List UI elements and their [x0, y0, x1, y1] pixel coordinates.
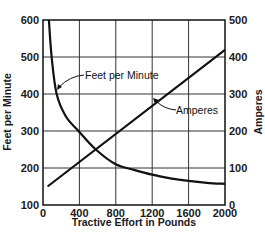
left-y-tick-label: 500	[21, 51, 39, 63]
right-y-tick-label: 200	[229, 125, 247, 137]
amps-annotation-arrow	[156, 101, 176, 110]
left-y-axis-ticks: 100200300400500600	[21, 14, 39, 211]
left-y-tick-label: 600	[21, 14, 39, 26]
x-tick-label: 0	[40, 207, 46, 219]
chart-canvas: 0400800120016002000 100200300400500600 0…	[0, 0, 265, 243]
feet-per-minute-curve	[49, 20, 225, 184]
left-y-tick-label: 200	[21, 162, 39, 174]
right-y-axis-title: Amperes	[252, 89, 264, 134]
right-y-axis-ticks: 0100200300400500	[229, 14, 247, 211]
left-y-tick-label: 100	[21, 199, 39, 211]
fpm-annotation-arrow	[59, 75, 84, 87]
right-y-tick-label: 100	[229, 162, 247, 174]
right-y-tick-label: 500	[229, 14, 247, 26]
right-y-tick-label: 400	[229, 51, 247, 63]
left-y-tick-label: 300	[21, 125, 39, 137]
amps-annotation-label: Amperes	[176, 104, 218, 116]
right-y-tick-label: 0	[229, 199, 235, 211]
left-y-axis-title: Feet per Minute	[1, 73, 13, 151]
x-axis-title: Tractive Effort in Pounds	[72, 216, 196, 228]
right-y-tick-label: 300	[229, 88, 247, 100]
fpm-annotation-label: Feet per Minute	[85, 69, 159, 81]
left-y-tick-label: 400	[21, 88, 39, 100]
